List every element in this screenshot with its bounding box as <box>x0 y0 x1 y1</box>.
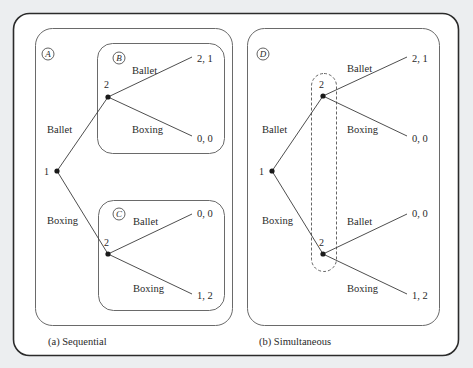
caption-simultaneous: (b) Simultaneous <box>259 336 331 348</box>
player2-label-bottom-b: 2 <box>319 237 324 248</box>
payoff-b-2: 0, 0 <box>412 133 428 144</box>
action-label-boxing-root-b: Boxing <box>262 215 294 226</box>
action-label-ballet-bottom-b: Ballet <box>347 216 372 227</box>
outer-frame <box>14 14 459 356</box>
action-label-boxing-root-a: Boxing <box>47 215 79 226</box>
payoff-a-1: 2, 1 <box>197 53 213 64</box>
player2-label-top-b: 2 <box>319 79 324 90</box>
caption-sequential: (a) Sequential <box>48 336 107 348</box>
svg-text:C: C <box>116 209 123 219</box>
payoff-b-4: 1, 2 <box>412 290 428 301</box>
action-label-ballet-top-b: Ballet <box>347 63 372 74</box>
player2-node-bottom-b <box>320 251 325 256</box>
payoff-a-2: 0, 0 <box>197 133 213 144</box>
player2-node-bottom-a <box>105 251 110 256</box>
action-label-ballet-root-b: Ballet <box>262 124 287 135</box>
root-player-label-b: 1 <box>259 166 264 177</box>
root-node-b <box>269 168 274 173</box>
figure: A B C 1 2 2 Ballet Boxing Ballet Bo <box>0 0 473 368</box>
payoff-a-4: 1, 2 <box>197 290 213 301</box>
svg-text:D: D <box>259 49 267 59</box>
action-label-boxing-bottom-b: Boxing <box>347 283 379 294</box>
game-tree-diagram: A B C 1 2 2 Ballet Boxing Ballet Bo <box>0 0 473 368</box>
payoff-a-3: 0, 0 <box>197 208 213 219</box>
action-label-boxing-top-b: Boxing <box>347 124 379 135</box>
player2-label-bottom-a: 2 <box>104 237 109 248</box>
action-label-ballet-root-a: Ballet <box>47 124 72 135</box>
svg-text:A: A <box>44 49 51 59</box>
player2-node-top-a <box>105 94 110 99</box>
payoff-b-1: 2, 1 <box>412 53 428 64</box>
action-label-ballet-c: Ballet <box>133 216 158 227</box>
payoff-b-3: 0, 0 <box>412 208 428 219</box>
root-player-label-a: 1 <box>44 166 49 177</box>
action-label-ballet-b: Ballet <box>132 65 157 76</box>
action-label-boxing-b: Boxing <box>132 124 164 135</box>
root-node-a <box>54 168 59 173</box>
action-label-boxing-c: Boxing <box>133 283 165 294</box>
player2-label-top-a: 2 <box>104 79 109 90</box>
svg-text:B: B <box>116 53 122 63</box>
player2-node-top-b <box>320 93 325 98</box>
